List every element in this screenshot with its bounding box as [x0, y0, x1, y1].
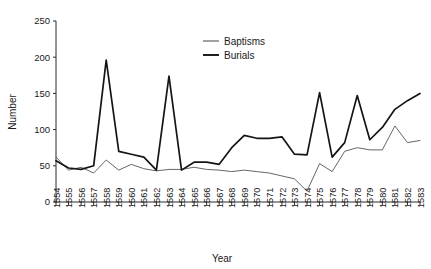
y-axis-title: Number: [7, 94, 18, 130]
y-tick-label: 50: [39, 160, 50, 171]
x-tick-label: 1581: [390, 188, 400, 208]
x-tick-label: 1560: [127, 188, 137, 208]
y-tick-label: 100: [34, 124, 50, 135]
x-tick-label: 1579: [365, 188, 375, 208]
x-tick-label: 1564: [177, 188, 187, 208]
x-tick-label: 1568: [227, 188, 237, 208]
y-axis: 050100150200250: [34, 15, 56, 207]
x-tick-label: 1555: [64, 188, 74, 208]
series-line-baptisms: [56, 126, 420, 191]
chart-canvas: 050100150200250 155415551556155715581559…: [0, 0, 431, 269]
x-tick-label: 1570: [252, 188, 262, 208]
x-tick-label: 1561: [139, 188, 149, 208]
legend-label-burials: Burials: [224, 50, 255, 61]
x-tick-label: 1573: [290, 188, 300, 208]
x-tick-label: 1558: [102, 188, 112, 208]
x-tick-label: 1569: [240, 188, 250, 208]
x-tick-label: 1580: [378, 188, 388, 208]
y-tick-label: 0: [45, 196, 50, 207]
x-tick-label: 1565: [190, 188, 200, 208]
x-tick-label: 1572: [278, 188, 288, 208]
line-chart: 050100150200250 155415551556155715581559…: [0, 0, 431, 269]
y-tick-label: 200: [34, 52, 50, 63]
x-tick-label: 1575: [315, 188, 325, 208]
data-series-group: [56, 60, 420, 191]
series-line-burials: [56, 60, 420, 170]
x-tick-label: 1554: [52, 188, 62, 208]
x-tick-label: 1559: [114, 188, 124, 208]
x-tick-label: 1563: [165, 188, 175, 208]
x-axis: 1554155515561557155815591560156115621563…: [52, 188, 426, 208]
y-tick-label: 250: [34, 15, 50, 26]
x-tick-label: 1583: [416, 188, 426, 208]
x-tick-label: 1582: [403, 188, 413, 208]
x-axis-title: Year: [212, 253, 233, 264]
y-tick-label: 150: [34, 88, 50, 99]
x-tick-label: 1577: [340, 188, 350, 208]
x-tick-label: 1557: [89, 188, 99, 208]
legend-label-baptisms: Baptisms: [224, 36, 265, 47]
x-tick-label: 1556: [77, 188, 87, 208]
x-tick-label: 1566: [202, 188, 212, 208]
chart-legend: BaptismsBurials: [203, 36, 265, 61]
x-tick-label: 1576: [328, 188, 338, 208]
x-tick-label: 1578: [353, 188, 363, 208]
x-tick-label: 1567: [215, 188, 225, 208]
x-tick-label: 1562: [152, 188, 162, 208]
x-tick-label: 1571: [265, 188, 275, 208]
